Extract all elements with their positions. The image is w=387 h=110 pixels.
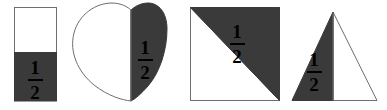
fraction-denominator: 2 — [140, 63, 150, 82]
figure-canvas: 1 2 1 2 1 2 1 2 — [0, 0, 387, 110]
heart-left-half-unshaded — [73, 3, 131, 101]
fraction-bar — [138, 59, 153, 61]
shapes-illustration — [0, 0, 387, 110]
fraction-denominator: 2 — [309, 75, 319, 94]
fraction-label-square: 1 2 — [228, 22, 246, 66]
fraction-bar — [230, 43, 245, 45]
fraction-numerator: 1 — [140, 38, 150, 57]
fraction-denominator: 2 — [232, 47, 242, 66]
fraction-numerator: 1 — [30, 58, 40, 77]
triangle-right-half-unshaded — [333, 12, 377, 101]
fraction-denominator: 2 — [30, 83, 40, 102]
fraction-numerator: 1 — [232, 22, 242, 41]
fraction-label-heart: 1 2 — [136, 38, 154, 82]
fraction-numerator: 1 — [309, 50, 319, 69]
fraction-label-triangle: 1 2 — [305, 50, 323, 94]
rectangle-top-half-unshaded — [15, 8, 57, 53]
fraction-bar — [307, 71, 322, 73]
fraction-bar — [28, 79, 43, 81]
fraction-label-rectangle: 1 2 — [26, 58, 44, 102]
